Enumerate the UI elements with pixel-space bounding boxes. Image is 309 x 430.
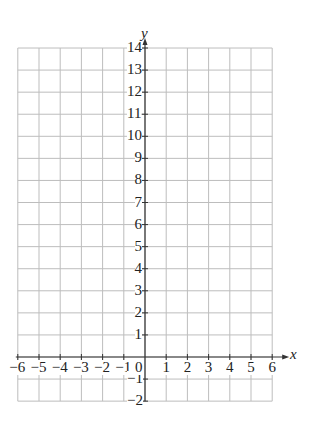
y-tick-label: −2 (127, 393, 143, 408)
x-tick-label: −3 (73, 360, 89, 375)
x-tick-label: 6 (268, 360, 276, 375)
y-tick-label: 10 (127, 128, 142, 143)
x-tick-label: −6 (9, 360, 25, 375)
y-tick-label: 14 (127, 40, 142, 55)
x-tick-label: 5 (247, 360, 255, 375)
x-tick-label: 3 (205, 360, 213, 375)
x-axis-label: x (290, 346, 297, 363)
y-tick-label: 1 (135, 327, 143, 342)
x-tick-label: 2 (184, 360, 192, 375)
y-tick-label: 8 (135, 172, 143, 187)
y-tick-label: 13 (127, 62, 142, 77)
y-tick-label: 12 (127, 84, 142, 99)
x-tick-label: −5 (31, 360, 47, 375)
x-tick-label: 1 (162, 360, 170, 375)
x-tick-label: −2 (94, 360, 110, 375)
y-tick-label: 4 (135, 261, 143, 276)
y-tick-label: 9 (135, 150, 143, 165)
y-tick-label: 3 (135, 283, 143, 298)
y-tick-label: 11 (127, 106, 141, 121)
x-tick-label: −4 (52, 360, 68, 375)
y-axis-label: y (141, 25, 148, 42)
y-tick-label: 6 (135, 217, 143, 232)
y-tick-label: 7 (135, 195, 143, 210)
y-tick-label: 2 (135, 305, 143, 320)
origin-label: 0 (135, 360, 143, 375)
x-tick-label: 4 (226, 360, 234, 375)
y-tick-label: 5 (135, 239, 143, 254)
